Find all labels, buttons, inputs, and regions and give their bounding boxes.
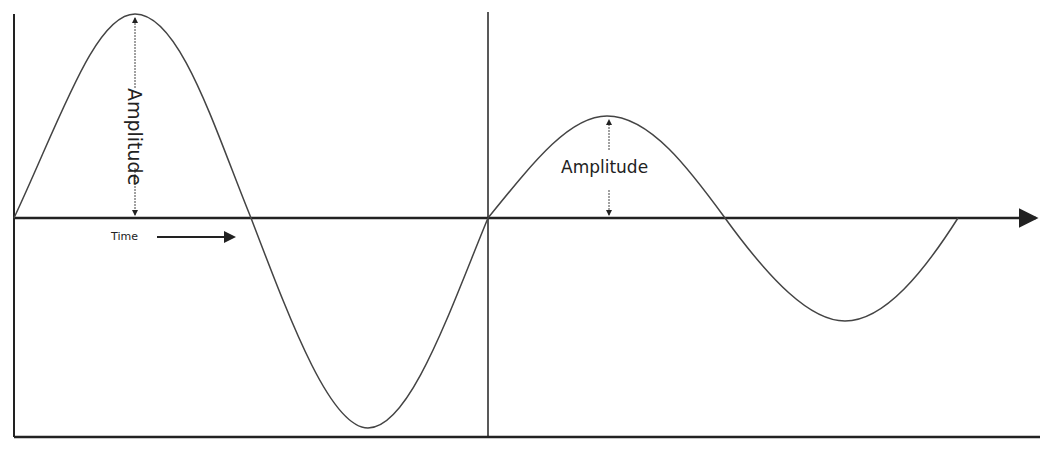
- wave-diagram: [0, 0, 1047, 450]
- time-label: Time: [111, 230, 138, 243]
- large-amplitude-wave: [14, 14, 488, 428]
- amplitude-label-large: Amplitude: [124, 88, 146, 185]
- amplitude-label-small: Amplitude: [561, 157, 648, 177]
